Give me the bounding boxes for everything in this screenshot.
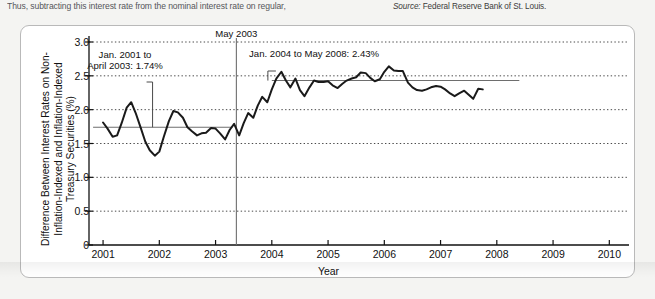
source-value: Federal Reserve Bank of St. Louis.: [421, 2, 547, 11]
x-axis-label-2003: 2003: [193, 248, 239, 260]
x-axis-label-2010: 2010: [586, 248, 632, 260]
source-label: Source:: [393, 2, 421, 11]
x-axis-label-2009: 2009: [530, 248, 576, 260]
annotation-period-1-average: Jan. 2001 to April 2003: 1.74%: [71, 49, 179, 72]
data-series-0: [103, 66, 483, 155]
chart-card: 00.51.01.52.02.53.0 Difference Between I…: [20, 25, 635, 278]
x-axis-label-2007: 2007: [418, 248, 464, 260]
article-running-text: Thus, subtracting this interest rate fro…: [7, 1, 337, 11]
x-axis-label-2001: 2001: [80, 248, 126, 260]
x-axis-label-2004: 2004: [249, 248, 295, 260]
source-note: Source: Federal Reserve Bank of St. Loui…: [393, 2, 546, 12]
annotation-period-2-average: Jan. 2004 to May 2008: 2.43%: [249, 48, 449, 59]
period-1-leader-line: [147, 82, 153, 127]
x-axis-label-2006: 2006: [361, 248, 407, 260]
y-axis-title: Difference Between Interest Rates on Non…: [37, 42, 81, 257]
x-axis-label-2002: 2002: [136, 248, 182, 260]
x-axis-label-2008: 2008: [474, 248, 520, 260]
x-axis-title: Year: [21, 265, 636, 277]
page-background: Thus, subtracting this interest rate fro…: [0, 0, 655, 299]
x-axis-label-2005: 2005: [305, 248, 351, 260]
annotation-may-2003: May 2003: [176, 28, 296, 39]
